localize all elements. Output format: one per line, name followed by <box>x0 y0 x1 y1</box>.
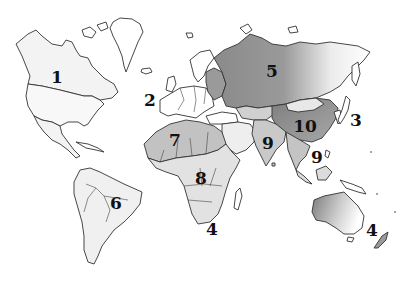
region-label-9-india: 9 <box>262 135 274 152</box>
region-label-8: 8 <box>195 170 207 187</box>
region-label-9-southeast-asia: 9 <box>311 149 323 166</box>
world-map: 1 2 5 3 10 7 9 9 8 6 4 4 <box>0 0 413 281</box>
central-asia <box>236 106 274 120</box>
region-label-4-africa: 4 <box>206 221 218 238</box>
region-label-4-oceania: 4 <box>366 222 378 239</box>
region-label-5: 5 <box>266 63 278 80</box>
uk <box>166 76 176 92</box>
world-map-graphic <box>0 0 413 281</box>
region-label-10: 10 <box>293 118 317 135</box>
iceland <box>141 68 152 74</box>
australia <box>312 192 364 234</box>
madagascar <box>234 188 242 210</box>
region-label-1: 1 <box>51 69 63 86</box>
region-label-6: 6 <box>110 195 122 212</box>
region-label-2: 2 <box>144 92 156 109</box>
region-label-7: 7 <box>169 132 181 149</box>
greenland <box>110 18 143 72</box>
region-label-3: 3 <box>350 112 362 129</box>
